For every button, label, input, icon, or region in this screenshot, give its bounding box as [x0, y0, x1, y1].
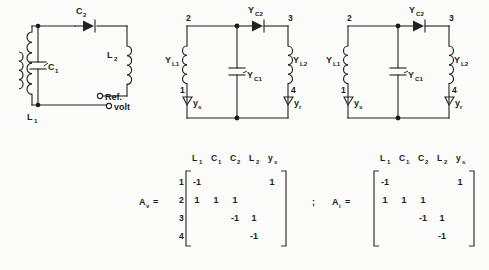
matrix-ai-cell-3-3: -1	[438, 231, 446, 241]
yc1-label-right: Y	[408, 70, 414, 80]
matrix-av-col-header-0-sub: 1	[199, 159, 203, 165]
inductor-yl2-coil-right	[449, 46, 454, 84]
matrix-av-col-header-4: y	[268, 153, 273, 163]
yc1-label: Y	[247, 70, 253, 80]
matrix-av-row-header-1: 2	[179, 195, 184, 205]
circuit-2: Y C2 2 3 Y L1 1 y s Y C1	[165, 5, 308, 120]
matrix-av-cell-2-2: -1	[231, 213, 239, 223]
c3-node-label-3: 3	[449, 13, 454, 23]
matrix-ai-col-header-4-sub: s	[462, 159, 466, 165]
terminal-volt-label: volt	[114, 102, 130, 112]
ys-label-sub-right: s	[359, 103, 363, 110]
yl2-label-sub: L2	[300, 60, 308, 67]
matrix-av-right-bracket	[281, 171, 286, 246]
matrix-av: A v = L 1 C 1 C 2 L 2 y s 1 2 3 4 -1 1 1…	[139, 153, 286, 246]
inductor-yl1-coil-right	[343, 46, 348, 84]
terminal-ref-label: Ref.	[105, 92, 122, 102]
node-dot-bottom	[36, 103, 41, 108]
matrix-av-equals: =	[153, 197, 158, 207]
matrix-ai-cell-2-3: 1	[439, 213, 444, 223]
yc2-label-sub: C2	[255, 10, 263, 17]
matrix-ai-col-header-2-sub: 2	[425, 159, 429, 165]
matrix-av-col-header-0: L	[192, 153, 197, 163]
l1-label-sub: 1	[34, 117, 38, 124]
matrix-ai: ; A i = L 1 C 1 C 2 L 2 y s -1 1 1 1 1 -…	[312, 153, 474, 246]
matrix-ai-cell-1-2: 1	[420, 195, 425, 205]
matrix-av-name-sub: v	[146, 203, 150, 209]
matrix-av-row-header-2: 3	[179, 213, 184, 223]
yc1-label-sub: C1	[254, 75, 262, 82]
capacitor-yc2-symbol	[252, 20, 264, 32]
matrix-ai-equals: =	[345, 197, 350, 207]
matrix-ai-col-header-1: C	[399, 153, 405, 163]
matrix-ai-cell-1-1: 1	[401, 195, 406, 205]
inductor-l2-coil	[127, 46, 132, 84]
yl1-label-sub: L1	[172, 60, 180, 67]
yl1-label-right: Y	[326, 55, 332, 65]
matrix-ai-col-header-0: L	[380, 153, 385, 163]
terminal-ref[interactable]	[97, 93, 102, 98]
matrix-av-left-bracket	[186, 171, 191, 246]
matrix-av-col-header-2-sub: 2	[237, 159, 241, 165]
circuit-1: C 2 C 1	[19, 6, 132, 124]
inductor-yl1-coil	[182, 46, 187, 84]
matrix-av-cell-3-3: -1	[250, 231, 258, 241]
matrix-ai-col-header-3: L	[437, 153, 442, 163]
yl2-label-right: Y	[454, 55, 460, 65]
matrix-ai-name: A	[332, 197, 339, 207]
terminal-volt[interactable]	[106, 103, 111, 108]
inductor-yl2-coil	[288, 46, 293, 84]
c2-label-sub: 2	[83, 11, 87, 18]
c2-label: C	[76, 6, 83, 16]
matrix-ai-col-header-1-sub: 1	[406, 159, 410, 165]
matrix-ai-cell-0-4: 1	[457, 177, 462, 187]
matrix-av-cell-0-4: 1	[269, 177, 274, 187]
matrix-ai-left-bracket	[374, 171, 379, 246]
circuit-3: Y C2 2 3 Y L1 1 y s Y C1	[326, 5, 469, 120]
c2-node-label-2: 2	[186, 13, 191, 23]
figure-page: C 2 C 1	[0, 0, 489, 270]
technical-figure: C 2 C 1	[0, 0, 489, 270]
capacitor-c2-symbol	[83, 20, 95, 32]
yl1-label: Y	[165, 55, 171, 65]
matrix-av-col-header-3: L	[249, 153, 254, 163]
yl1-label-sub-right: L1	[333, 60, 341, 67]
yc1-label-sub-right: C1	[415, 75, 423, 82]
matrix-av-row-header-3: 4	[179, 231, 184, 241]
matrix-ai-right-bracket	[469, 171, 474, 246]
matrix-av-name: A	[139, 197, 146, 207]
c1-label: C	[48, 62, 55, 72]
matrix-av-cell-1-1: 1	[213, 195, 218, 205]
c3-node-label-2: 2	[347, 13, 352, 23]
inductor-l1-secondary-coil	[19, 52, 23, 89]
matrix-ai-col-header-2: C	[418, 153, 424, 163]
matrix-ai-cell-1-0: 1	[382, 195, 387, 205]
matrix-ai-cell-2-2: -1	[419, 213, 427, 223]
l2-label: L	[107, 50, 113, 60]
matrix-av-col-header-3-sub: 2	[256, 159, 260, 165]
matrix-ai-name-sub: i	[339, 203, 341, 209]
c2-node-label-1: 1	[180, 85, 185, 95]
matrix-ai-col-header-0-sub: 1	[387, 159, 391, 165]
l2-label-sub: 2	[114, 55, 118, 62]
yc2-label-sub-right: C2	[416, 10, 424, 17]
matrix-av-row-header-0: 1	[179, 177, 184, 187]
matrix-ai-cell-0-0: -1	[381, 177, 389, 187]
yc2-label-right: Y	[409, 5, 415, 15]
yl2-label-sub-right: L2	[461, 60, 469, 67]
capacitor-yc2-symbol-right	[413, 20, 425, 32]
ys-label-sub: s	[198, 103, 202, 110]
yr-label-sub: r	[299, 103, 302, 110]
c3-node-label-1: 1	[341, 85, 346, 95]
matrix-av-cell-0-0: -1	[193, 177, 201, 187]
inductor-l1-coil	[27, 32, 32, 94]
c2-node-dot-bottom	[235, 116, 240, 121]
yc2-label: Y	[248, 5, 254, 15]
matrix-av-cell-1-0: 1	[194, 195, 199, 205]
c1-label-sub: 1	[55, 67, 59, 74]
matrix-ai-col-header-3-sub: 2	[444, 159, 448, 165]
matrix-av-cell-1-2: 1	[232, 195, 237, 205]
matrix-av-col-header-4-sub: s	[274, 159, 278, 165]
c3-node-dot-bottom	[396, 116, 401, 121]
yl2-label: Y	[293, 55, 299, 65]
